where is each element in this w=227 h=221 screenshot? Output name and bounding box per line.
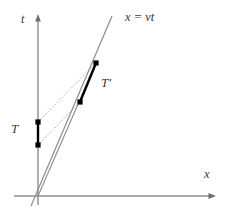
dotted-connector-lower (38, 102, 80, 145)
diagram-canvas (0, 0, 227, 221)
spacetime-diagram: t x x = vt T T′ (0, 0, 227, 221)
endpoint-dot-T-upper (35, 119, 40, 124)
segment-T-prime-label: T′ (101, 76, 111, 89)
segment-T-prime (80, 63, 96, 102)
endpoint-dot-T-lower (35, 142, 40, 147)
dotted-connector-upper (38, 63, 96, 122)
segment-T-label: T (11, 122, 18, 135)
endpoint-dot-T-prime-upper (93, 60, 98, 65)
worldline-label: x = vt (125, 11, 154, 24)
t-axis-arrowhead (35, 14, 41, 22)
t-axis-label: t (21, 13, 24, 25)
x-axis-label: x (204, 168, 210, 181)
endpoint-dot-T-prime-lower (77, 99, 82, 104)
x-axis-arrowhead (209, 193, 217, 199)
